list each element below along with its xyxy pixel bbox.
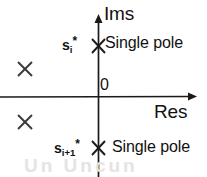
real-axis-line <box>0 97 193 98</box>
real-axis-label: Res <box>154 102 187 121</box>
real-axis-arrowhead <box>188 93 197 101</box>
watermark-text: Un Uncun <box>24 155 184 175</box>
complex-plane-figure: Ims Res 0 si* Single pole si+1* Single p… <box>0 0 207 177</box>
pole-lower-annotation: Single pole <box>112 139 190 155</box>
pole-upper-base: s <box>62 37 70 53</box>
pole-upper-superscript: * <box>72 34 77 48</box>
pole-upper-symbol: si* <box>62 36 77 54</box>
pole-upper-annotation: Single pole <box>105 35 183 51</box>
pole-lower-base: s <box>54 140 62 156</box>
imaginary-axis-arrowhead <box>95 14 103 23</box>
imaginary-axis-label: Ims <box>104 4 134 23</box>
origin-label: 0 <box>100 77 109 93</box>
pole-marker-left-upper <box>18 62 32 76</box>
pole-lower-superscript: * <box>75 137 80 151</box>
pole-marker-left-lower <box>18 115 32 129</box>
